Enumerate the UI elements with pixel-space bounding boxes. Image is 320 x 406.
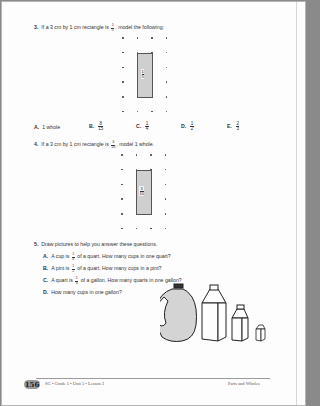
question-3-prompt: 3.If a 3 cm by 1 cm rectangle is 15, mod… [34,24,164,32]
choice-letter: D. [181,123,186,129]
question-5a: A.A cup is 14 of a quart. How many cups … [43,253,171,261]
choice-c: C.14 [136,122,150,132]
question-4-prompt: 4.If a 3 cm by 1 cm rectangle is 310, mo… [34,141,154,149]
grid-dot [150,154,152,156]
grid-dot [122,96,124,98]
prompt-text: If a 3 cm by 1 cm rectangle is [41,141,108,147]
choice-letter: C. [136,123,141,129]
choice-d: D.12 [181,122,195,132]
choice-text: 1 whole [42,124,60,130]
denominator: 10 [111,146,115,150]
part-letter: C. [43,277,48,283]
question-number: 3. [34,24,38,30]
prompt-text: , model the following: [115,24,164,30]
rectangle-fraction-label: 310 [139,186,144,196]
fraction: 310 [111,141,115,149]
footer-section-title: Parts and Wholes [228,381,259,386]
part-text: of a quart. How many cups in one quart? [77,253,170,259]
part-text: A cup is [51,253,69,259]
footer-rule [36,378,270,379]
cup-carton-icon [256,325,265,341]
denominator: 2 [190,127,194,131]
denominator: 2 [72,270,75,274]
grid-dot [122,81,124,83]
denominator: 5 [142,74,144,79]
prompt-text: Draw pictures to help you answer these q… [41,241,157,247]
question-5d: D.How many cups in one gallon? [43,289,122,295]
shaded-rectangle-q3 [137,53,153,98]
question-5b: B.A pint is 12 of a quart. How many cups… [43,265,161,273]
denominator: 15 [98,127,103,131]
rectangle-fraction-label: 15 [141,69,144,79]
question-5-prompt: 5.Draw pictures to help you answer these… [34,241,157,247]
grid-dot [151,37,153,39]
denominator: 3 [236,127,240,131]
choice-a: A.1 whole [34,124,60,130]
part-letter: B. [43,265,48,271]
grid-dot [121,198,123,200]
choice-b: B.815 [89,122,104,132]
choice-e: E.23 [227,122,240,132]
choice-letter: B. [89,123,94,129]
grid-dot [121,213,123,215]
part-text: of a quart. How many cups in a pint? [77,265,161,271]
question-number: 4. [34,141,38,147]
page-edge [296,2,297,405]
denominator: 4 [145,127,149,131]
fraction: 15 [111,24,114,32]
denominator: 4 [72,258,75,262]
gallon-jug-icon [160,284,197,342]
half-gallon-carton-icon [202,285,226,341]
footer-course-info: SG • Grade 5 • Unit 5 • Lesson 3 [45,381,104,386]
grid-dot [121,184,123,186]
denominator: 5 [111,29,114,33]
grid-dot [121,154,123,156]
part-text: A pint is [51,265,69,271]
choice-letter: E. [227,123,232,129]
part-letter: A. [43,253,48,259]
denominator: 10 [140,191,144,196]
part-text: How many cups in one gallon? [51,289,122,295]
question-number: 5. [34,241,38,247]
prompt-text: If a 3 cm by 1 cm rectangle is [41,24,108,30]
grid-dot [122,67,124,69]
prompt-text: , model 1 whole. [116,141,154,147]
denominator: 4 [75,282,78,286]
grid-dot [122,37,124,39]
part-letter: D. [43,289,48,295]
part-text: A quart is [51,277,73,283]
milk-containers-illustration [160,283,280,353]
choice-letter: A. [34,124,39,130]
page-number-badge: 156 [24,380,40,389]
quart-carton-icon [232,305,248,341]
